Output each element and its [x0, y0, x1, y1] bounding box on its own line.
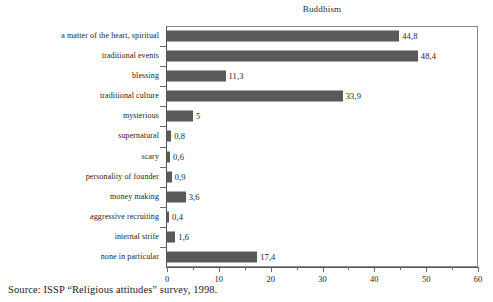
bar	[167, 111, 193, 122]
x-axis-tick-minor	[348, 267, 349, 270]
category-label: traditional events	[102, 51, 159, 61]
x-axis-tick-minor	[245, 267, 246, 270]
bar	[167, 71, 226, 82]
bar-value-label: 11,3	[229, 71, 244, 81]
bar-row: personality of founder0,9	[0, 167, 493, 187]
source-note: Source: ISSP “Religious attitudes” surve…	[8, 284, 217, 295]
bar-row: supernatural0,8	[0, 126, 493, 146]
y-axis-tick	[160, 46, 166, 47]
bar-row: traditional events48,4	[0, 46, 493, 66]
bar-value-label: 48,4	[421, 51, 436, 61]
bar-row: traditional culture33,9	[0, 86, 493, 106]
category-label: traditional culture	[100, 91, 159, 101]
chart-figure: Buddhism a matter of the heart, spiritua…	[0, 0, 493, 302]
y-axis-tick	[160, 66, 166, 67]
category-label: none in particular	[101, 252, 159, 262]
x-axis-tick-major	[271, 267, 272, 272]
category-label: a matter of the heart, spiritual	[61, 31, 159, 41]
bar	[167, 171, 172, 182]
category-label: scary	[142, 152, 159, 162]
x-axis-tick-label: 0	[165, 274, 169, 284]
x-axis-tick-minor	[297, 267, 298, 270]
x-axis-tick-major	[323, 267, 324, 272]
x-axis-tick-minor	[452, 267, 453, 270]
x-axis-tick-label: 30	[318, 274, 327, 284]
chart-title: Buddhism	[166, 4, 478, 14]
x-axis-tick-major	[426, 267, 427, 272]
x-axis-tick-major	[374, 267, 375, 272]
bar-value-label: 33,9	[346, 91, 361, 101]
bar	[167, 91, 343, 102]
bar-value-label: 17,4	[260, 252, 275, 262]
y-axis-tick	[160, 227, 166, 228]
bar-value-label: 1,6	[178, 232, 189, 242]
y-axis-tick	[160, 207, 166, 208]
category-label: personality of founder	[86, 172, 159, 182]
bar-value-label: 44,8	[402, 31, 417, 41]
bar-row: internal strife1,6	[0, 227, 493, 247]
x-axis-tick-major	[167, 267, 168, 272]
y-axis-tick	[160, 187, 166, 188]
x-axis-tick-major	[219, 267, 220, 272]
y-axis-tick	[160, 106, 166, 107]
category-label: mysterious	[123, 111, 159, 121]
bar-row: blessing11,3	[0, 66, 493, 86]
x-axis-tick-major	[478, 267, 479, 272]
x-axis-tick-minor	[400, 267, 401, 270]
bar-value-label: 0,4	[172, 212, 183, 222]
bar-row: money making3,6	[0, 187, 493, 207]
bar	[167, 151, 170, 162]
bar	[167, 211, 169, 222]
x-axis-tick-label: 50	[422, 274, 431, 284]
bar-row: none in particular17,4	[0, 247, 493, 267]
bar-value-label: 0,8	[174, 131, 185, 141]
category-label: supernatural	[118, 131, 159, 141]
x-axis-tick-label: 60	[474, 274, 483, 284]
bar-row: a matter of the heart, spiritual44,8	[0, 26, 493, 46]
bar-row: mysterious5	[0, 106, 493, 126]
category-label: aggressive recruiting	[90, 212, 159, 222]
y-axis-tick	[160, 147, 166, 148]
bar	[167, 131, 171, 142]
bar-row: scary0,6	[0, 147, 493, 167]
bar	[167, 191, 186, 202]
y-axis-tick	[160, 86, 166, 87]
bar-value-label: 3,6	[189, 192, 200, 202]
bar-row: aggressive recruiting0,4	[0, 207, 493, 227]
y-axis-tick	[160, 167, 166, 168]
y-axis-tick	[160, 126, 166, 127]
bar-value-label: 5	[196, 111, 200, 121]
category-label: internal strife	[115, 232, 159, 242]
bar-value-label: 0,9	[175, 172, 186, 182]
y-axis-tick	[160, 247, 166, 248]
x-axis-tick-label: 10	[215, 274, 224, 284]
bar	[167, 251, 257, 262]
x-axis-tick-minor	[193, 267, 194, 270]
x-axis-tick-label: 20	[266, 274, 275, 284]
bar-value-label: 0,6	[173, 152, 184, 162]
category-label: money making	[110, 192, 159, 202]
bar	[167, 231, 175, 242]
x-axis-tick-label: 40	[370, 274, 379, 284]
bar	[167, 51, 418, 62]
category-label: blessing	[132, 71, 159, 81]
bar	[167, 31, 399, 42]
